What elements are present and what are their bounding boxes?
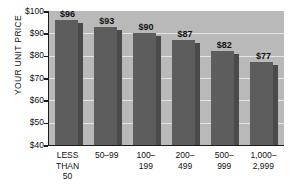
y-axis-tick-label: $50 bbox=[16, 117, 44, 127]
bar-value-label: $90 bbox=[126, 22, 166, 32]
bar-value-label: $87 bbox=[165, 29, 205, 39]
bar-chart: YOUR UNIT PRICE $100$90$80$70$60$50$40 $… bbox=[0, 0, 291, 191]
bar-side-face bbox=[195, 43, 200, 145]
bar bbox=[55, 20, 78, 145]
bar bbox=[250, 62, 273, 145]
bar-face bbox=[55, 20, 78, 145]
bar-side-face bbox=[78, 23, 83, 145]
bar bbox=[172, 40, 195, 145]
y-axis-tick-label: $60 bbox=[16, 95, 44, 105]
bar bbox=[133, 33, 156, 145]
y-axis-tick-label: $100 bbox=[16, 6, 44, 16]
y-axis-title: YOUR UNIT PRICE bbox=[13, 0, 23, 125]
bar-value-label: $93 bbox=[87, 16, 127, 26]
bar-side-face bbox=[156, 36, 161, 145]
bar-face bbox=[211, 51, 234, 145]
gridline bbox=[49, 78, 284, 79]
bar-value-label: $82 bbox=[204, 40, 244, 50]
bar-value-label: $96 bbox=[48, 9, 88, 19]
x-axis-tick-label: 1,000– 2,999 bbox=[240, 150, 287, 171]
y-axis-tick-label: $80 bbox=[16, 50, 44, 60]
y-axis-tick-label: $70 bbox=[16, 73, 44, 83]
bar-face bbox=[133, 33, 156, 145]
gridline bbox=[49, 123, 284, 124]
bar-face bbox=[94, 27, 117, 145]
bar bbox=[94, 27, 117, 145]
bar bbox=[211, 51, 234, 145]
bar-side-face bbox=[234, 54, 239, 145]
gridline bbox=[49, 100, 284, 101]
y-axis-tick-label: $90 bbox=[16, 28, 44, 38]
bar-side-face bbox=[117, 30, 122, 145]
bar-face bbox=[172, 40, 195, 145]
bar-side-face bbox=[273, 65, 278, 145]
bar-value-label: $77 bbox=[243, 51, 283, 61]
y-axis-tick-label: $40 bbox=[16, 140, 44, 150]
bar-face bbox=[250, 62, 273, 145]
